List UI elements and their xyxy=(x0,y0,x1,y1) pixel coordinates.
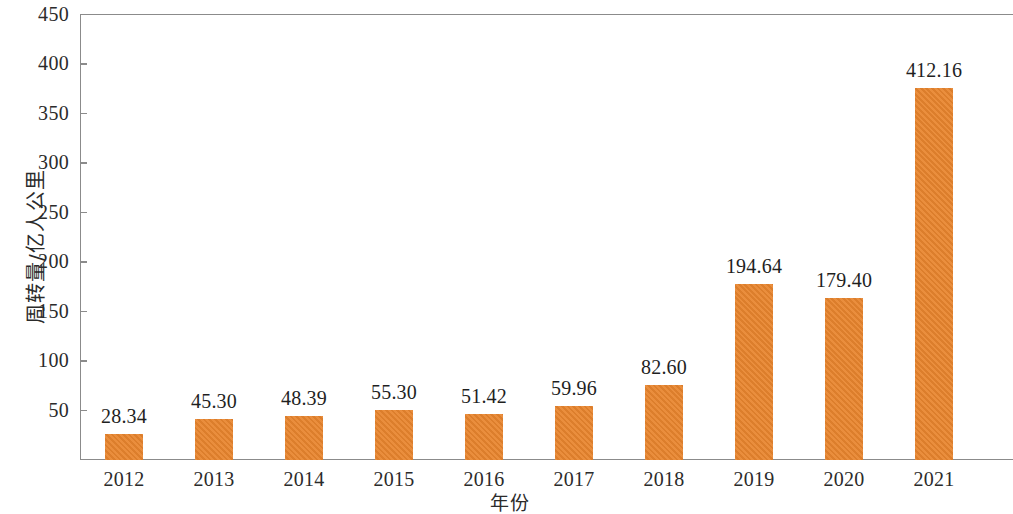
bar-group: 55.30 xyxy=(349,14,439,460)
bar-group: 82.60 xyxy=(619,14,709,460)
bar-chart: 50100150200250300350400450 周转量/亿人公里 28.3… xyxy=(0,0,1013,514)
y-tick-label: 350 xyxy=(38,101,69,124)
bar-group: 59.96 xyxy=(529,14,619,460)
bar[interactable] xyxy=(915,88,953,460)
bar-group: 412.16 xyxy=(889,14,979,460)
bar-value-label: 82.60 xyxy=(641,356,687,379)
bar[interactable] xyxy=(645,385,683,460)
bar-group: 179.40 xyxy=(799,14,889,460)
bar-value-label: 28.34 xyxy=(101,405,147,428)
bar-value-label: 55.30 xyxy=(371,381,417,404)
bar-value-label: 59.96 xyxy=(551,377,597,400)
bar-group: 45.30 xyxy=(169,14,259,460)
bar-group: 28.34 xyxy=(79,14,169,460)
y-axis-title: 周转量/亿人公里 xyxy=(20,127,49,367)
bar-value-label: 412.16 xyxy=(906,59,962,82)
bar-value-label: 179.40 xyxy=(816,269,872,292)
y-tick-label: 50 xyxy=(48,398,69,421)
x-tick-label: 2021 xyxy=(874,468,994,491)
bar[interactable] xyxy=(285,416,323,460)
bar-value-label: 51.42 xyxy=(461,385,507,408)
y-tick-label: 450 xyxy=(38,3,69,26)
bar-group: 194.64 xyxy=(709,14,799,460)
bar[interactable] xyxy=(465,414,503,460)
y-tick-label: 400 xyxy=(38,52,69,75)
bar-group: 48.39 xyxy=(259,14,349,460)
bar-value-label: 194.64 xyxy=(726,255,782,278)
bars-layer: 28.3445.3048.3955.3051.4259.9682.60194.6… xyxy=(80,14,1013,460)
bar[interactable] xyxy=(105,434,143,460)
bar[interactable] xyxy=(825,298,863,460)
bar[interactable] xyxy=(555,406,593,460)
x-axis-title: 年份 xyxy=(450,488,570,514)
bar[interactable] xyxy=(375,410,413,460)
bar-value-label: 45.30 xyxy=(191,390,237,413)
bar[interactable] xyxy=(735,284,773,460)
bar[interactable] xyxy=(195,419,233,460)
bar-group: 51.42 xyxy=(439,14,529,460)
bar-value-label: 48.39 xyxy=(281,387,327,410)
